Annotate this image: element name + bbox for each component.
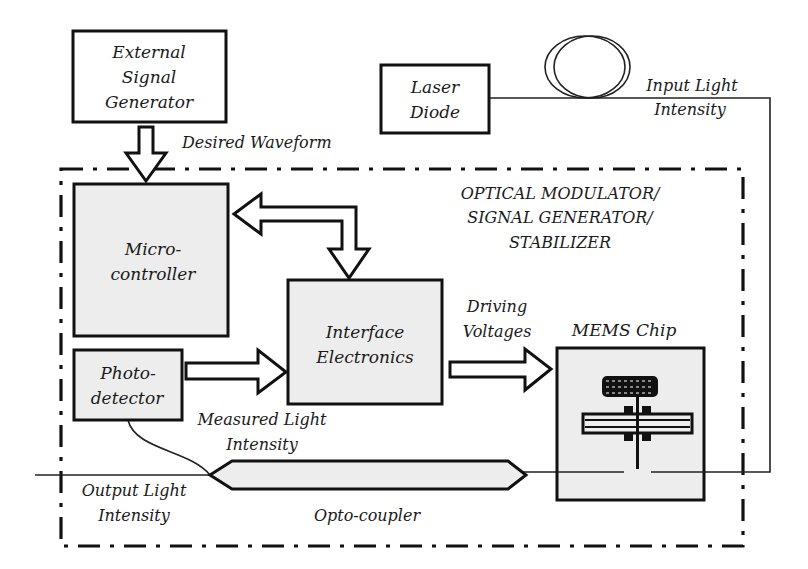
microcontroller-label-2: controller xyxy=(111,264,197,284)
photodetector-block: Photo- detector xyxy=(74,350,182,420)
external-label-2: Signal xyxy=(122,67,177,87)
system-block-diagram: External Signal Generator Desired Wavefo… xyxy=(0,0,808,569)
system-title-1: OPTICAL MODULATOR/ xyxy=(461,184,661,203)
interface-label-2: Electronics xyxy=(315,347,414,367)
external-signal-generator-block: External Signal Generator xyxy=(73,31,226,122)
photodetector-label-1: Photo- xyxy=(99,363,156,383)
output-light-label-1: Output Light xyxy=(82,481,187,500)
mems-chip-label: MEMS Chip xyxy=(571,320,677,340)
microcontroller-block: Micro- controller xyxy=(74,184,228,336)
opto-coupler-shape xyxy=(210,461,526,489)
desired-waveform-arrow xyxy=(126,127,166,181)
system-title-3: STABILIZER xyxy=(509,233,611,252)
measured-signal-arrow xyxy=(186,350,286,393)
laser-label-2: Diode xyxy=(409,102,460,122)
input-light-label-2: Intensity xyxy=(653,100,727,119)
laser-diode-block: Laser Diode xyxy=(381,65,489,133)
system-title-2: SIGNAL GENERATOR/ xyxy=(467,208,654,227)
driving-label-1: Driving xyxy=(466,297,527,316)
bidirectional-arrow xyxy=(234,194,369,278)
measured-light-label-1: Measured Light xyxy=(196,410,327,429)
microcontroller-label-1: Micro- xyxy=(124,239,182,259)
input-light-label-1: Input Light xyxy=(645,76,738,95)
output-light-label-2: Intensity xyxy=(97,506,171,525)
external-label-1: External xyxy=(111,42,186,62)
interface-label-1: Interface xyxy=(325,322,405,342)
driving-voltages-arrow xyxy=(450,349,551,390)
driving-label-2: Voltages xyxy=(463,322,532,341)
measured-light-label-2: Intensity xyxy=(225,435,299,454)
laser-label-1: Laser xyxy=(410,77,460,97)
external-label-3: Generator xyxy=(105,92,194,112)
desired-waveform-label: Desired Waveform xyxy=(181,133,332,152)
interface-electronics-block: Interface Electronics xyxy=(288,280,442,404)
photodetector-label-2: detector xyxy=(91,388,164,408)
opto-coupler-label: Opto-coupler xyxy=(314,506,422,525)
mems-chip-block: MEMS Chip xyxy=(557,320,704,500)
